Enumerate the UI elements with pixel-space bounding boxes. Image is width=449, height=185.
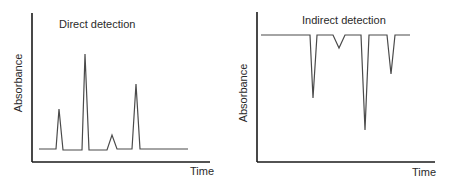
- x-axis-label: Time: [190, 165, 214, 177]
- y-axis-label: Absorbance: [237, 64, 249, 123]
- y-axis-label: Absorbance: [12, 54, 24, 113]
- figure: Direct detection Absorbance Time Indirec…: [0, 0, 449, 185]
- panel-direct-detection: Direct detection Absorbance Time: [12, 13, 214, 177]
- x-axis-label: Time: [412, 166, 436, 178]
- indirect-detection-trace: [261, 35, 410, 130]
- panel-title: Indirect detection: [302, 14, 386, 26]
- panel-indirect-detection: Indirect detection Absorbance Time: [237, 12, 436, 178]
- panel-title: Direct detection: [59, 18, 135, 30]
- direct-detection-trace: [39, 54, 188, 150]
